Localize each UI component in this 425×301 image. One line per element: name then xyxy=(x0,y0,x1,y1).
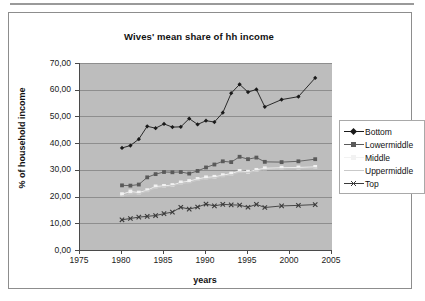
data-point-dash xyxy=(128,193,132,194)
data-point-dash xyxy=(212,177,216,178)
x-axis-title: years xyxy=(79,275,331,285)
legend-item-uppermiddle[interactable]: Uppermiddle xyxy=(343,164,424,177)
series-uppermiddle xyxy=(120,167,318,196)
data-point-diamond xyxy=(254,87,258,91)
data-point-diamond xyxy=(280,97,284,101)
data-point-dash xyxy=(187,182,191,183)
data-point-square xyxy=(120,183,124,187)
data-point-square xyxy=(196,169,200,173)
data-point-dash xyxy=(170,185,174,186)
data-point-dash xyxy=(246,172,250,173)
data-point-diamond xyxy=(154,126,158,130)
plot-area xyxy=(79,63,332,251)
legend-marker-diamond-icon xyxy=(343,126,365,138)
data-point-square xyxy=(187,172,191,176)
data-point-dash xyxy=(229,174,233,175)
data-point-diamond xyxy=(120,146,124,150)
legend-item-bottom[interactable]: Bottom xyxy=(343,125,424,138)
series-middle xyxy=(120,165,317,196)
y-axis-title: % of household income xyxy=(17,63,27,213)
data-point-dash xyxy=(204,178,208,179)
data-point-square xyxy=(179,170,183,174)
y-axis-tick-label: 10,00 xyxy=(31,219,71,228)
data-point-square xyxy=(137,183,141,187)
data-point-dash xyxy=(263,169,267,170)
chart-title: Wives' mean share of hh income xyxy=(49,31,349,42)
data-point-dash xyxy=(254,170,258,171)
legend-item-label: Bottom xyxy=(365,126,392,138)
legend-item-label: Middle xyxy=(365,152,390,164)
data-point-square xyxy=(297,159,301,163)
series-line xyxy=(122,204,315,220)
x-axis-tick-label: 2000 xyxy=(269,255,309,265)
series-line xyxy=(122,168,315,196)
data-point-square xyxy=(280,160,284,164)
data-point-square xyxy=(313,157,317,161)
data-point-cross xyxy=(254,202,258,206)
series-top xyxy=(120,202,318,222)
legend-marker-dash-icon xyxy=(343,165,365,177)
legend-item-lowermiddle[interactable]: Lowermiddle xyxy=(343,138,424,151)
data-point-diamond xyxy=(170,125,174,129)
data-point-diamond xyxy=(204,119,208,123)
data-point-diamond xyxy=(162,122,166,126)
y-axis-tick-label: 20,00 xyxy=(31,192,71,201)
data-point-dash xyxy=(145,191,149,192)
data-point-dash xyxy=(179,183,183,184)
data-point-dash xyxy=(313,167,317,168)
data-point-diamond xyxy=(263,105,267,109)
x-axis-tick-label: 1985 xyxy=(143,255,183,265)
data-point-dash xyxy=(195,180,199,181)
legend-item-middle[interactable]: Middle xyxy=(343,151,424,164)
data-point-square xyxy=(145,175,149,179)
data-point-square xyxy=(238,155,242,159)
y-axis-tick-label: 60,00 xyxy=(31,85,71,94)
x-axis-tick-label: 2005 xyxy=(311,255,351,265)
y-axis-tick-label: 30,00 xyxy=(31,165,71,174)
data-point-square xyxy=(204,166,208,170)
series-bottom xyxy=(120,76,317,150)
x-axis-tick-label: 1975 xyxy=(59,255,99,265)
y-axis-tick-label: 0,00 xyxy=(31,246,71,255)
series-line xyxy=(122,78,315,148)
data-point-dash xyxy=(120,195,124,196)
data-point-square xyxy=(154,172,158,176)
series-lowermiddle xyxy=(120,155,317,188)
x-axis-tick-label: 1990 xyxy=(185,255,225,265)
data-point-square xyxy=(129,190,133,194)
data-point-square xyxy=(213,163,217,167)
legend-marker-cross-icon xyxy=(343,178,365,190)
legend-item-top[interactable]: Top xyxy=(343,177,424,190)
legend-item-label: Top xyxy=(365,178,379,190)
data-point-dash xyxy=(237,172,241,173)
data-point-square xyxy=(162,170,166,174)
data-point-dash xyxy=(296,168,300,169)
data-point-dash xyxy=(221,176,225,177)
data-point-square xyxy=(246,157,250,161)
x-axis-tick-label: 1995 xyxy=(227,255,267,265)
data-point-dash xyxy=(153,187,157,188)
data-point-square xyxy=(171,170,175,174)
data-point-square xyxy=(229,160,233,164)
y-axis-tick-label: 70,00 xyxy=(31,59,71,68)
series-layer xyxy=(80,63,332,250)
chart-frame: Wives' mean share of hh income % of hous… xyxy=(8,12,412,289)
y-axis-tick-label: 40,00 xyxy=(31,139,71,148)
data-point-square xyxy=(255,156,259,160)
legend-item-label: Lowermiddle xyxy=(365,139,413,151)
legend[interactable]: BottomLowermiddleMiddleUppermiddleTop xyxy=(339,120,425,194)
legend-marker-square-icon xyxy=(343,152,365,164)
data-point-dash xyxy=(137,193,141,194)
y-axis-tick-label: 50,00 xyxy=(31,112,71,121)
x-axis-tick-label: 1980 xyxy=(101,255,141,265)
legend-marker-square-icon xyxy=(343,139,365,151)
data-point-square xyxy=(221,159,225,163)
data-point-square xyxy=(129,184,133,188)
series-line xyxy=(122,157,315,186)
legend-item-label: Uppermiddle xyxy=(365,165,413,177)
data-point-dash xyxy=(162,186,166,187)
data-point-square xyxy=(263,160,267,164)
page-top-rule xyxy=(10,3,414,5)
data-point-dash xyxy=(279,168,283,169)
